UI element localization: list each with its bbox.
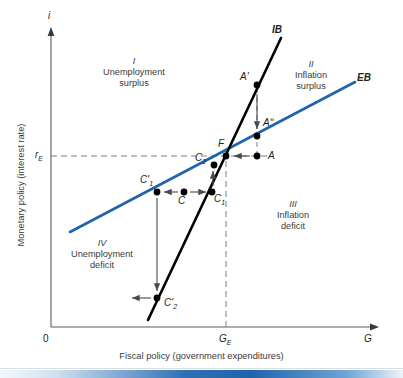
point-A-prime (254, 82, 261, 89)
y-axis-variable: i (48, 10, 50, 22)
x-tick-label-GE: GE (219, 333, 231, 347)
point-label-Cp1-sub: 1 (149, 180, 153, 187)
point-A-double-prime (254, 133, 261, 140)
quadrant-IV-roman: IV (56, 238, 148, 249)
y-tick-sub: E (38, 155, 43, 162)
point-label-C1-sub: 1 (221, 199, 225, 206)
diagram-canvas (0, 0, 403, 378)
point-label-C: C (178, 195, 185, 207)
y-axis-title: Monetary policy (interest rate) (16, 85, 26, 285)
quadrant-IV-line1: Unemployment (71, 249, 133, 259)
point-label-C1: C1 (214, 193, 225, 207)
point-F (223, 153, 230, 160)
bottom-accent-bar (0, 370, 403, 378)
point-C2 (211, 162, 218, 169)
point-label-Cp1-base: C' (140, 174, 149, 185)
point-C-prime-2 (154, 295, 161, 302)
point-label-C2-sub: 2 (202, 158, 206, 165)
point-label-C-prime-1: C'1 (140, 174, 153, 188)
ib-curve-label: IB (272, 24, 282, 36)
x-tick-sub: E (227, 339, 232, 346)
quadrant-I-line1: Unemployment (103, 67, 165, 77)
eb-curve-label: EB (357, 72, 371, 84)
quadrant-II-line1: Inflation (295, 70, 327, 80)
quadrant-III-roman: III (264, 199, 322, 210)
bottom-divider (0, 368, 403, 369)
point-label-C2: C2 (195, 152, 206, 166)
point-label-Cp2-sub: 2 (173, 303, 177, 310)
point-label-A: A (268, 150, 275, 162)
quadrant-label-IV: IV Unemployment deficit (56, 238, 148, 271)
point-label-C-prime-2: C'2 (164, 297, 177, 311)
equilibrium-guides (51, 88, 268, 327)
quadrant-I-roman: I (88, 56, 180, 67)
quadrant-II-roman: II (282, 59, 340, 70)
y-tick-label-rE: rE (35, 149, 43, 163)
quadrant-I-line2: surplus (119, 78, 149, 88)
point-A (254, 153, 261, 160)
quadrant-label-III: III Inflation deficit (264, 199, 322, 232)
quadrant-II-line2: surplus (296, 81, 326, 91)
quadrant-label-I: I Unemployment surplus (88, 56, 180, 89)
x-axis (51, 324, 379, 331)
origin-label: 0 (43, 333, 49, 345)
point-C-prime-1 (154, 189, 161, 196)
quadrant-IV-line2: deficit (90, 260, 114, 270)
y-axis (48, 27, 55, 327)
x-axis-variable: G (364, 333, 372, 345)
point-label-A-double-prime: Aʺ (263, 117, 273, 129)
point-label-Cp2-base: C' (164, 297, 173, 308)
point-label-A-prime: A' (240, 71, 249, 83)
adjustment-arrows (132, 94, 257, 298)
x-tick-base: G (219, 333, 227, 344)
x-axis-title: Fiscal policy (government expenditures) (0, 351, 403, 361)
quadrant-III-line1: Inflation (277, 210, 309, 220)
quadrant-label-II: II Inflation surplus (282, 59, 340, 92)
point-label-F: F (218, 138, 224, 150)
economics-diagram-figure: i G 0 GE rE Monetary policy (interest ra… (0, 0, 403, 378)
quadrant-III-line2: deficit (281, 221, 305, 231)
